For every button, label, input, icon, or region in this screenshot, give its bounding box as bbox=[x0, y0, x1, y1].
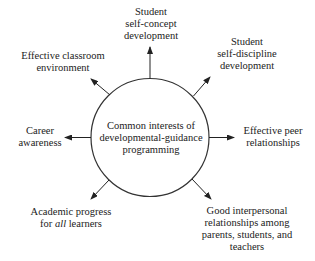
node-peer: Effective peer relationships bbox=[244, 125, 303, 149]
center-line: Common interests of bbox=[99, 120, 202, 132]
text-run-italic: all bbox=[55, 218, 66, 229]
node-line: awareness bbox=[18, 137, 61, 149]
center-line: programming bbox=[99, 144, 202, 156]
node-line: relationships bbox=[244, 137, 303, 149]
arrow-down-right bbox=[192, 179, 211, 199]
node-line: Student bbox=[217, 36, 276, 48]
node-line: parents, students, and bbox=[202, 229, 292, 241]
node-line-2: for all learners bbox=[31, 218, 112, 230]
node-interpersonal: Good interpersonal relationships among p… bbox=[202, 205, 292, 253]
node-academic: Academic progress for all learners bbox=[31, 206, 112, 230]
arrow-up-left bbox=[91, 79, 110, 95]
node-line: Academic progress bbox=[31, 206, 112, 218]
node-line: Effective classroom bbox=[21, 50, 104, 62]
node-line: development bbox=[124, 30, 178, 42]
node-line: self-concept bbox=[124, 18, 178, 30]
node-line: Career bbox=[18, 125, 61, 137]
node-line: Good interpersonal bbox=[202, 205, 292, 217]
node-line: relationships among bbox=[202, 217, 292, 229]
node-career: Career awareness bbox=[18, 125, 61, 149]
center-label: Common interests of developmental-guidan… bbox=[99, 120, 202, 156]
arrow-up-right bbox=[194, 77, 211, 96]
text-run: for bbox=[40, 218, 55, 229]
node-self-concept: Student self-concept development bbox=[124, 6, 178, 42]
node-line: self-discipline bbox=[217, 48, 276, 60]
node-self-discipline: Student self-discipline development bbox=[217, 36, 276, 72]
text-run: learners bbox=[66, 218, 102, 229]
node-line: development bbox=[217, 60, 276, 72]
node-line: Effective peer bbox=[244, 125, 303, 137]
node-line: teachers bbox=[202, 241, 292, 253]
center-line: developmental-guidance bbox=[99, 132, 202, 144]
node-line: Student bbox=[124, 6, 178, 18]
arrow-down-left bbox=[91, 180, 109, 199]
node-classroom: Effective classroom environment bbox=[21, 50, 104, 74]
diagram-canvas: Common interests of developmental-guidan… bbox=[0, 0, 315, 261]
node-line: environment bbox=[21, 62, 104, 74]
